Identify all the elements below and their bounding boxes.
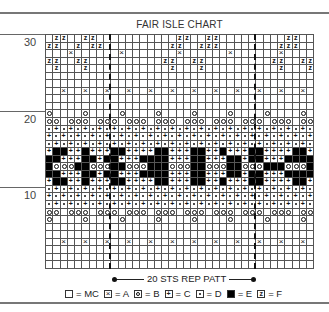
grid-cell <box>154 72 161 80</box>
grid-cell <box>277 192 284 200</box>
grid-cell <box>234 140 241 148</box>
grid-cell <box>81 87 88 95</box>
grid-cell <box>212 162 219 170</box>
bottom-rule <box>0 302 329 304</box>
grid-cell <box>139 140 146 148</box>
grid-cell <box>241 245 248 253</box>
grid-cell <box>60 64 67 72</box>
grid-cell <box>67 185 74 193</box>
grid-cell <box>52 200 59 208</box>
grid-cell <box>118 79 125 87</box>
grid-cell <box>226 177 233 185</box>
grid-cell <box>190 125 197 133</box>
grid-cell <box>45 57 52 65</box>
grid-cell <box>292 177 299 185</box>
grid-cell <box>81 140 88 148</box>
grid-cell <box>139 64 146 72</box>
grid-cell <box>255 140 262 148</box>
grid-cell <box>89 102 96 110</box>
grid-cell <box>299 102 306 110</box>
grid-cell <box>299 87 306 95</box>
grid-cell <box>255 125 262 133</box>
grid-cell <box>60 94 67 102</box>
grid-cell <box>161 200 168 208</box>
grid-cell <box>67 72 74 80</box>
grid-cell <box>190 49 197 57</box>
grid-cell <box>197 87 204 95</box>
grid-cell <box>219 253 226 261</box>
grid-cell <box>168 238 175 246</box>
grid-cell <box>110 192 117 200</box>
grid-cell <box>241 147 248 155</box>
grid-cell <box>255 102 262 110</box>
grid-cell <box>161 109 168 117</box>
grid-cell <box>306 208 313 216</box>
grid-cell <box>168 230 175 238</box>
grid-cell <box>299 215 306 223</box>
grid-cell <box>234 238 241 246</box>
grid-cell <box>299 57 306 65</box>
grid-cell <box>306 34 313 42</box>
grid-cell <box>118 49 125 57</box>
grid-cell <box>96 125 103 133</box>
grid-cell <box>277 64 284 72</box>
grid-cell <box>110 185 117 193</box>
grid-cell <box>67 170 74 178</box>
grid-cell <box>147 200 154 208</box>
grid-cell <box>81 79 88 87</box>
grid-cell <box>139 170 146 178</box>
grid-cell <box>52 87 59 95</box>
grid-cell <box>125 200 132 208</box>
grid-cell <box>270 245 277 253</box>
grid-cell <box>52 132 59 140</box>
grid-cell <box>118 87 125 95</box>
grid-cell <box>110 155 117 163</box>
grid-cell <box>147 79 154 87</box>
grid-cell <box>234 94 241 102</box>
grid-cell <box>168 155 175 163</box>
grid-cell <box>190 223 197 231</box>
legend-label: = A <box>115 288 129 299</box>
grid-cell <box>263 162 270 170</box>
grid-cell <box>270 34 277 42</box>
grid-cell <box>292 94 299 102</box>
grid-cell <box>263 102 270 110</box>
grid-cell <box>110 102 117 110</box>
grid-cell <box>45 185 52 193</box>
grid-cell <box>81 185 88 193</box>
grid-cell <box>176 72 183 80</box>
grid-cell <box>277 147 284 155</box>
grid-cell <box>67 200 74 208</box>
grid-cell <box>154 185 161 193</box>
grid-cell <box>52 109 59 117</box>
grid-cell <box>89 177 96 185</box>
grid-cell <box>154 215 161 223</box>
grid-cell <box>284 260 291 268</box>
grid-cell <box>52 223 59 231</box>
grid-cell <box>241 177 248 185</box>
grid-cell <box>147 102 154 110</box>
grid-cell <box>299 253 306 261</box>
grid-cell <box>284 185 291 193</box>
grid-cell <box>168 170 175 178</box>
grid-cell <box>255 230 262 238</box>
grid-cell <box>205 117 212 125</box>
grid-cell <box>234 215 241 223</box>
grid-cell <box>96 253 103 261</box>
grid-cell <box>139 200 146 208</box>
grid-cell <box>60 147 67 155</box>
grid-cell <box>306 42 313 50</box>
grid-cell <box>234 260 241 268</box>
grid-cell <box>74 162 81 170</box>
grid-cell <box>168 64 175 72</box>
repeat-label: 20 STS REP PATT <box>144 274 229 284</box>
grid-cell <box>125 42 132 50</box>
grid-cell <box>234 42 241 50</box>
grid-cell <box>234 109 241 117</box>
grid-cell <box>161 260 168 268</box>
grid-cell <box>263 208 270 216</box>
grid-cell <box>284 200 291 208</box>
grid-cell <box>176 200 183 208</box>
grid-cell <box>147 140 154 148</box>
grid-cell <box>74 49 81 57</box>
